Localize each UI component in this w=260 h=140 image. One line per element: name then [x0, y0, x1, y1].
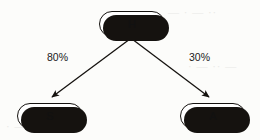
- node-s[interactable]: S: [17, 103, 83, 129]
- edge-h-to-a: [132, 39, 209, 97]
- edge-label-h-to-a: 30%: [189, 51, 210, 63]
- node-a[interactable]: A: [180, 103, 246, 129]
- edge-label-h-to-s: 80%: [47, 51, 68, 63]
- diagram-canvas: — · — ·· · — ·· — ·· — · · —· H S A 80% …: [0, 0, 260, 140]
- edge-h-to-s: [52, 39, 130, 97]
- node-s-label: S: [46, 111, 53, 122]
- node-a-label: A: [209, 111, 216, 122]
- node-h[interactable]: H: [99, 11, 165, 37]
- node-h-label: H: [128, 19, 136, 30]
